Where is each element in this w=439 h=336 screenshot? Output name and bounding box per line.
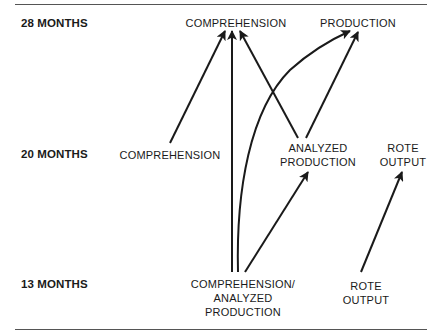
arrow-13rote-to-20rote bbox=[361, 172, 402, 272]
arrow-20ap-to-28prod bbox=[306, 32, 358, 138]
arrow-13cap-to-28prod bbox=[238, 31, 350, 272]
arrow-20ap-to-28comp bbox=[240, 31, 298, 138]
arrow-13cap-to-20ap bbox=[245, 172, 308, 272]
arrows-layer bbox=[0, 0, 439, 336]
arrow-20comp-to-28comp bbox=[170, 31, 225, 143]
